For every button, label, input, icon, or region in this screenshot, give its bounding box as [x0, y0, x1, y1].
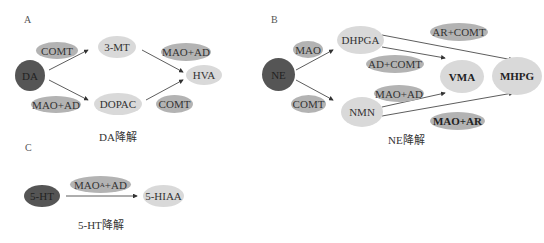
node-5ht: 5-HT [24, 185, 60, 207]
enzyme-ar-comt: AR+COMT [430, 23, 488, 41]
enzyme-comt-2: COMT [156, 95, 193, 113]
panel-b-label: B [271, 14, 278, 25]
caption-ne: NE降解 [388, 131, 425, 147]
enzyme-comt: COMT [36, 42, 78, 59]
node-mhpg: MHPG [492, 57, 542, 95]
enzyme-mao-ad-2: MAO+AD [31, 96, 81, 113]
caption-da: DA降解 [99, 128, 137, 144]
panel-c-label: C [25, 142, 32, 153]
node-5hiaa: 5-HIAA [143, 185, 184, 207]
node-da: DA [15, 60, 45, 91]
enzyme-maoa-rest: +AD [105, 179, 127, 191]
node-vma: VMA [440, 60, 484, 93]
node-3mt: 3-MT [98, 36, 136, 58]
node-hva: HVA [186, 65, 222, 85]
node-dopac: DOPAC [94, 93, 142, 115]
enzyme-mao-ad-1: MAO+AD [161, 43, 211, 61]
enzyme-ad-comt: AD+COMT [366, 55, 424, 73]
enzyme-maoa-ad: MAOA+AD [70, 176, 131, 193]
caption-5ht: 5-HT降解 [78, 216, 124, 232]
enzyme-mao-ad: MAO+AD [374, 85, 424, 102]
enzyme-maoa-main: MAO [74, 179, 100, 191]
enzyme-comt-b: COMT [291, 95, 326, 113]
panel-a-label: A [24, 14, 31, 25]
node-nmn: NMN [341, 97, 383, 127]
node-ne: NE [262, 58, 295, 91]
node-dhpga: DHPGA [337, 26, 384, 54]
enzyme-mao-ar: MAO+AR [430, 112, 485, 130]
enzyme-mao: MAO [293, 41, 323, 58]
